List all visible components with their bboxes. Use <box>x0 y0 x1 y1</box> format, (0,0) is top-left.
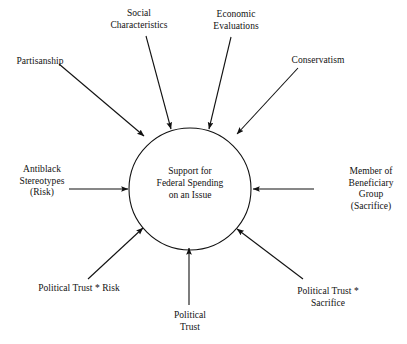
node-label-economic-evaluations: Economic Evaluations <box>213 9 258 32</box>
node-label-partisanship: Partisanship <box>16 56 63 68</box>
node-label-antiblack-stereotypes-risk: Antiblack Stereotypes (Risk) <box>20 164 65 199</box>
node-label-political-trust-sacrifice: Political Trust * Sacrifice <box>289 286 368 309</box>
center-node-label: Support for Federal Spending on an Issue <box>130 166 250 201</box>
arrow-political-trust-risk <box>88 228 143 279</box>
arrow-social-characteristics <box>146 36 171 129</box>
arrow-conservatism <box>237 68 298 134</box>
arrow-partisanship <box>59 64 144 136</box>
node-label-member-of-beneficiary-group-sacrifice: Member of Beneficiary Group (Sacrifice) <box>349 166 394 212</box>
diagram-canvas: Support for Federal Spending on an Issue… <box>0 0 407 344</box>
node-label-conservatism: Conservatism <box>292 55 345 67</box>
node-label-political-trust-risk: Political Trust * Risk <box>38 283 120 295</box>
node-label-social-characteristics: Social Characteristics <box>110 8 167 31</box>
arrow-political-trust-sacrifice <box>237 229 303 279</box>
node-label-political-trust: Political Trust <box>174 310 206 333</box>
arrow-economic-evaluations <box>209 37 231 129</box>
